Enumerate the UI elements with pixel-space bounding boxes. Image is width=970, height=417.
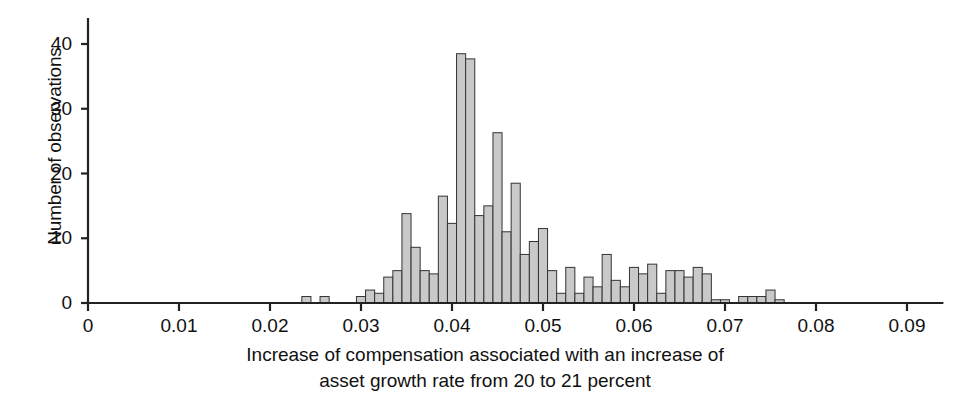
- histogram-bar: [375, 293, 384, 303]
- histogram-bar: [411, 247, 420, 303]
- y-axis-tick-label: 40: [32, 34, 72, 53]
- histogram-bar: [693, 267, 702, 303]
- y-axis-tick-label: 0: [32, 293, 72, 312]
- histogram-bar: [602, 254, 611, 303]
- histogram-bar: [475, 216, 484, 303]
- histogram-bar: [566, 267, 575, 303]
- histogram-bar: [402, 214, 411, 303]
- histogram-bar: [684, 277, 693, 303]
- histogram-bar: [493, 133, 502, 303]
- x-axis-tick-label: 0.03: [321, 316, 401, 335]
- histogram-bar: [384, 277, 393, 303]
- x-axis-tick-label: 0.02: [230, 316, 310, 335]
- histogram-bar: [484, 206, 493, 303]
- x-axis-tick-label: 0.05: [503, 316, 583, 335]
- histogram-bar: [593, 287, 602, 303]
- histogram-bar: [420, 271, 429, 303]
- y-axis-tick-label: 20: [32, 164, 72, 183]
- histogram-svg: [0, 0, 970, 330]
- x-axis-tick-label: 0.01: [139, 316, 219, 335]
- x-axis-tick-label: 0.09: [867, 316, 947, 335]
- caption-line-2: asset growth rate from 20 to 21 percent: [0, 368, 970, 394]
- x-axis-caption: Increase of compensation associated with…: [0, 342, 970, 393]
- y-axis-tick-label: 30: [32, 99, 72, 118]
- histogram-bar: [511, 183, 520, 303]
- histogram-bar: [620, 287, 629, 303]
- histogram-bar: [584, 277, 593, 303]
- histogram-bar: [457, 54, 466, 303]
- histogram-bar: [611, 280, 620, 303]
- histogram-bar: [639, 274, 648, 303]
- histogram-bar: [675, 271, 684, 303]
- histogram-bar: [629, 267, 638, 303]
- plot-area: 01020304000.010.020.030.040.050.060.070.…: [0, 0, 970, 330]
- histogram-bar: [557, 293, 566, 303]
- histogram-figure: Number of observations 01020304000.010.0…: [0, 0, 970, 417]
- histogram-bar: [502, 232, 511, 303]
- histogram-bar: [393, 271, 402, 303]
- histogram-bar: [366, 290, 375, 303]
- histogram-bar: [766, 290, 775, 303]
- histogram-bar: [657, 293, 666, 303]
- histogram-bar: [520, 254, 529, 303]
- y-axis-tick-label: 10: [32, 228, 72, 247]
- histogram-bar: [702, 274, 711, 303]
- histogram-bar: [429, 274, 438, 303]
- histogram-bar: [438, 196, 447, 303]
- x-axis-tick-label: 0.06: [594, 316, 674, 335]
- x-axis-tick-label: 0.07: [685, 316, 765, 335]
- histogram-bar: [529, 241, 538, 303]
- histogram-bar: [575, 293, 584, 303]
- histogram-bar: [666, 271, 675, 303]
- caption-line-1: Increase of compensation associated with…: [0, 342, 970, 368]
- histogram-bar: [447, 223, 456, 303]
- x-axis-tick-label: 0: [48, 316, 128, 335]
- histogram-bar: [538, 229, 547, 303]
- histogram-bar: [466, 59, 475, 303]
- histogram-bar: [648, 264, 657, 303]
- histogram-bars: [302, 54, 784, 303]
- x-axis-tick-label: 0.08: [776, 316, 856, 335]
- x-axis-tick-label: 0.04: [412, 316, 492, 335]
- histogram-bar: [548, 271, 557, 303]
